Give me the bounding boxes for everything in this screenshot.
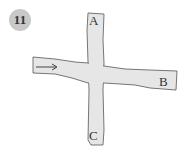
horizontal-road bbox=[33, 57, 177, 90]
label-b: B bbox=[159, 74, 168, 90]
label-c: C bbox=[89, 128, 98, 144]
label-a: A bbox=[89, 13, 98, 29]
